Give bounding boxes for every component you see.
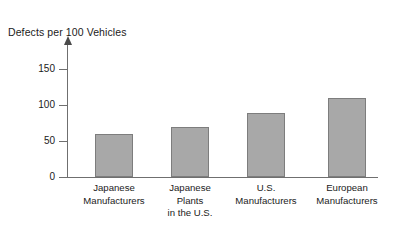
y-tick-150 bbox=[59, 69, 67, 70]
x-category-label-line: European bbox=[299, 182, 395, 195]
x-axis-line bbox=[67, 177, 378, 178]
x-category-label-3: EuropeanManufacturers bbox=[299, 182, 395, 207]
y-axis-arrow-icon bbox=[64, 36, 72, 45]
y-tick-label-0: 0 bbox=[21, 171, 55, 182]
y-tick-label-50: 50 bbox=[21, 135, 55, 146]
y-tick-100 bbox=[59, 105, 67, 106]
y-tick-label-150: 150 bbox=[21, 63, 55, 74]
bar-japanese-manufacturers bbox=[95, 134, 133, 177]
y-tick-0 bbox=[59, 177, 67, 178]
y-axis-line bbox=[67, 44, 68, 178]
x-category-label-line: in the U.S. bbox=[142, 207, 238, 220]
bar-us-manufacturers bbox=[247, 113, 285, 177]
y-tick-label-100: 100 bbox=[21, 99, 55, 110]
bar-japanese-plants-in-the-us bbox=[171, 127, 209, 177]
chart-screenshot: Defects per 100 Vehicles 0 50 100 150 Ja… bbox=[0, 0, 395, 233]
bar-chart-plot-area: 0 50 100 150 JapaneseManufacturers Japan… bbox=[0, 0, 395, 233]
x-category-label-line: Manufacturers bbox=[299, 195, 395, 208]
bar-european-manufacturers bbox=[328, 98, 366, 177]
y-tick-50 bbox=[59, 141, 67, 142]
